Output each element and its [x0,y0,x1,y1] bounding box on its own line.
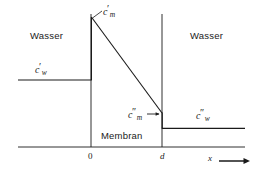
conc-prime-cm-dprime: ″ [132,106,136,117]
region-label-water-left: Wasser [30,31,63,41]
conc-sub-cw-prime: w [42,68,47,77]
region-label-water-right: Wasser [190,31,223,41]
callout-leader-line [93,11,103,18]
conc-sub-cm-prime: m [110,10,115,19]
x-axis-tick-d: d [160,152,165,161]
x-axis-label: x [208,154,212,163]
region-label-membran: Membran [101,131,143,141]
conc-prime-cw-prime: ′ [39,61,41,72]
conc-prime-cw-dprime: ″ [200,107,204,118]
concentration-label-membrane-left: c′m [103,4,115,19]
conc-sub-cm-dprime: m [137,113,142,122]
diagram-canvas [0,0,263,174]
concentration-label-membrane-right: c″m [128,107,142,122]
x-axis-direction-arrow-icon [219,158,250,164]
x-axis-tick-zero: 0 [88,152,93,161]
pointer-arrow-icon [147,112,160,115]
concentration-label-water-left: c′w [35,62,47,77]
concentration-label-water-right: c″w [196,108,210,123]
concentration-profile-figure: Wasser Wasser Membran c′m c′w c″m c″w 0 … [0,0,263,174]
concentration-curve-membrane-gradient [91,17,162,113]
conc-prime-cm-prime: ′ [107,3,109,14]
conc-sub-cw-dprime: w [205,114,210,123]
